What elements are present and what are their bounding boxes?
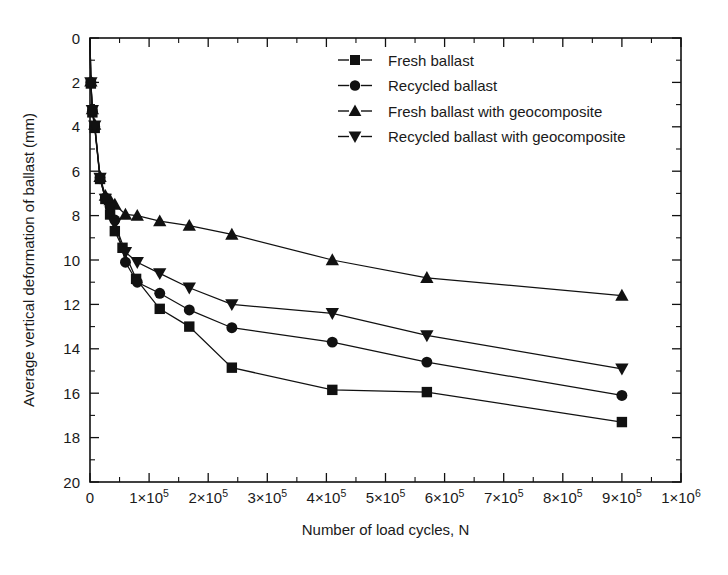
data-point-marker xyxy=(349,105,362,116)
y-tick-label: 0 xyxy=(72,30,80,47)
data-point-marker xyxy=(227,362,237,372)
y-tick-label: 8 xyxy=(72,207,80,224)
x-tick-label: 5×105 xyxy=(366,487,406,506)
x-tick-label: 4×105 xyxy=(307,487,347,506)
data-point-marker xyxy=(226,322,237,333)
data-point-marker xyxy=(132,277,143,288)
legend-item[interactable]: Recycled ballast xyxy=(338,77,498,94)
series-layer xyxy=(84,38,628,427)
y-tick-label: 10 xyxy=(63,252,80,269)
data-point-marker xyxy=(422,387,432,397)
series-fresh-ballast-with-geocomposite xyxy=(84,38,628,301)
x-tick-label: 0 xyxy=(86,489,94,506)
x-tick-label: 6×105 xyxy=(425,487,465,506)
legend-label: Fresh ballast with geocomposite xyxy=(388,103,602,120)
data-point-marker xyxy=(154,288,165,299)
chart-figure: 01×1052×1053×1054×1055×1056×1057×1058×10… xyxy=(0,0,728,575)
legend-item[interactable]: Recycled ballast with geocomposite xyxy=(338,128,626,145)
data-point-marker xyxy=(327,385,337,395)
y-tick-label: 14 xyxy=(63,340,80,357)
x-tick-label: 9×105 xyxy=(602,487,642,506)
x-tick-label: 8×105 xyxy=(543,487,583,506)
data-point-marker xyxy=(350,80,361,91)
data-point-marker xyxy=(349,132,362,143)
data-point-marker xyxy=(183,283,196,295)
legend-item[interactable]: Fresh ballast with geocomposite xyxy=(338,103,602,120)
chart-svg: 01×1052×1053×1054×1055×1056×1057×1058×10… xyxy=(0,0,728,575)
data-point-marker xyxy=(131,257,144,269)
x-tick-label: 1×106 xyxy=(661,487,701,506)
x-tick-label: 3×105 xyxy=(247,487,287,506)
x-tick-label: 1×105 xyxy=(129,487,169,506)
legend-item[interactable]: Fresh ballast xyxy=(338,52,475,69)
data-point-marker xyxy=(155,304,165,314)
y-tick-label: 18 xyxy=(63,429,80,446)
data-point-marker xyxy=(327,337,338,348)
legend-label: Recycled ballast with geocomposite xyxy=(388,128,626,145)
y-tick-label: 2 xyxy=(72,74,80,91)
y-tick-label: 16 xyxy=(63,385,80,402)
series-fresh-ballast xyxy=(86,38,627,427)
y-tick-label: 20 xyxy=(63,474,80,491)
data-point-marker xyxy=(184,321,194,331)
y-tick-label: 4 xyxy=(72,118,80,135)
legend-label: Fresh ballast xyxy=(388,52,475,69)
y-tick-label: 6 xyxy=(72,163,80,180)
y-axis-title: Average vertical deformation of ballast … xyxy=(20,113,37,407)
legend-label: Recycled ballast xyxy=(388,77,498,94)
data-point-marker xyxy=(350,55,360,65)
data-point-marker xyxy=(153,268,166,280)
series-recycled-ballast xyxy=(85,38,627,401)
x-tick-label: 2×105 xyxy=(188,487,228,506)
data-point-marker xyxy=(617,417,627,427)
data-point-marker xyxy=(616,390,627,401)
legend: Fresh ballastRecycled ballastFresh balla… xyxy=(338,52,626,146)
data-point-marker xyxy=(615,364,628,376)
data-point-marker xyxy=(421,357,432,368)
y-tick-label: 12 xyxy=(63,296,80,313)
data-point-marker xyxy=(184,304,195,315)
x-tick-label: 7×105 xyxy=(484,487,524,506)
x-axis-title: Number of load cycles, N xyxy=(302,521,470,538)
y-axis: 02468101214161820 xyxy=(63,30,681,491)
